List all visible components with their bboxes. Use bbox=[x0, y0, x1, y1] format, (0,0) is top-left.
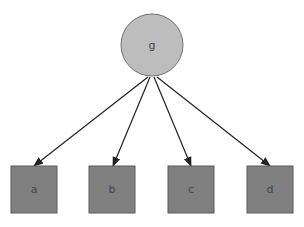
tree-diagram: g a b c d bbox=[0, 0, 304, 227]
edge-g-c bbox=[154, 77, 191, 166]
node-c-label: c bbox=[188, 183, 194, 196]
node-b[interactable]: b bbox=[89, 166, 135, 213]
edge-g-d bbox=[157, 77, 270, 166]
node-a-label: a bbox=[31, 183, 38, 196]
node-d-label: d bbox=[267, 183, 274, 196]
node-d[interactable]: d bbox=[247, 166, 293, 213]
node-b-label: b bbox=[109, 183, 116, 196]
node-a[interactable]: a bbox=[11, 166, 57, 213]
node-g[interactable]: g bbox=[121, 14, 183, 76]
edges bbox=[34, 77, 270, 166]
node-g-label: g bbox=[149, 39, 156, 52]
node-c[interactable]: c bbox=[168, 166, 214, 213]
diagram-canvas: g a b c d bbox=[0, 0, 304, 227]
